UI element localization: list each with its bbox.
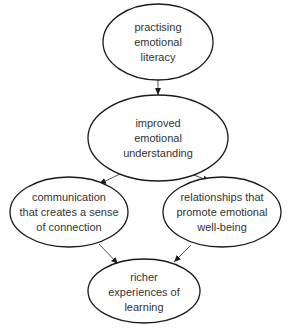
node-communication: communication that creates a sense of co… bbox=[10, 177, 128, 247]
node-improved-emotional-understanding: improved emotional understanding bbox=[88, 95, 228, 181]
node-practising-emotional-literacy: practising emotional literacy bbox=[103, 4, 213, 80]
node-line: understanding bbox=[123, 147, 193, 159]
node-line: improved bbox=[135, 117, 180, 129]
node-line: communication bbox=[32, 191, 106, 203]
edge-relationships-to-richer bbox=[174, 245, 191, 262]
node-line: promote emotional bbox=[176, 206, 267, 218]
node-richer-experiences-of-learning: richer experiences of learning bbox=[88, 259, 200, 323]
node-line: well-being bbox=[196, 221, 247, 233]
edge-communication-to-richer bbox=[99, 244, 118, 264]
node-line: relationships that bbox=[180, 191, 263, 203]
node-line: literacy bbox=[141, 51, 176, 63]
node-line: emotional bbox=[134, 36, 182, 48]
node-line: practising bbox=[134, 21, 181, 33]
node-line: experiences of bbox=[108, 286, 180, 298]
flow-diagram: practising emotional literacy improved e… bbox=[0, 0, 288, 334]
node-line: of connection bbox=[36, 221, 101, 233]
node-line: richer bbox=[130, 271, 158, 283]
node-line: emotional bbox=[134, 132, 182, 144]
node-line: that creates a sense bbox=[19, 206, 118, 218]
node-relationships: relationships that promote emotional wel… bbox=[163, 177, 281, 247]
node-line: learning bbox=[124, 301, 163, 313]
